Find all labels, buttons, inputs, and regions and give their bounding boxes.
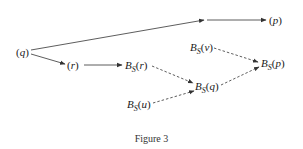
edge-bsq-to-bsp <box>221 67 259 85</box>
close-paren: ) <box>278 14 282 26</box>
node-bs-u: BS(u) <box>127 98 151 110</box>
node-bs-v: BS(v) <box>190 41 213 53</box>
node-p: (p) <box>269 14 282 26</box>
close-paren: ) <box>215 80 219 92</box>
node-prefix: B <box>261 57 268 69</box>
node-prefix: B <box>125 59 132 71</box>
edges-layer <box>0 0 303 149</box>
node-bs-q: BS(q) <box>195 80 219 92</box>
edge-bsr-to-bsq <box>152 66 193 83</box>
close-paren: ) <box>75 59 79 71</box>
edge-bsu-to-bsq <box>153 91 194 103</box>
close-paren: ) <box>281 57 285 69</box>
close-paren: ) <box>209 41 213 53</box>
figure-caption: Figure 3 <box>0 133 303 144</box>
close-paren: ) <box>144 59 148 71</box>
figure-3-diagram: (q) (r) (p) BS(r) BS(v) BS(p) BS(q) BS(u… <box>0 0 303 149</box>
node-bs-p: BS(p) <box>261 57 285 69</box>
node-bs-r: BS(r) <box>125 59 147 71</box>
close-paren: ) <box>25 46 29 58</box>
edge-q-to-r <box>31 54 65 64</box>
node-r: (r) <box>67 59 79 71</box>
node-prefix: B <box>195 80 202 92</box>
node-prefix: B <box>127 98 134 110</box>
edge-q-to-mid <box>31 20 204 50</box>
node-q: (q) <box>16 46 29 58</box>
node-prefix: B <box>190 41 197 53</box>
edge-bsv-to-bsp <box>214 48 258 62</box>
close-paren: ) <box>147 98 151 110</box>
